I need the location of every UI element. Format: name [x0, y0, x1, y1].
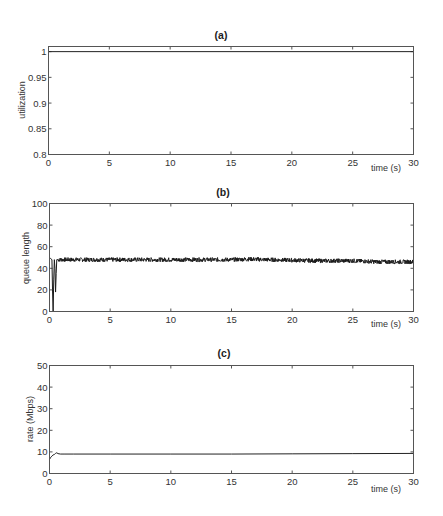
panel-a-frame [49, 47, 414, 155]
panel-c-frame [50, 366, 414, 474]
x-tick-label: 10 [166, 314, 177, 325]
panel-a-title: (a) [215, 29, 228, 41]
x-tick-label: 5 [108, 476, 113, 487]
x-tick-label: 0 [47, 476, 52, 487]
y-tick-label: 1 [41, 46, 46, 57]
panel-a-ticks: 0510152025300.80.850.90.951 [28, 46, 419, 167]
x-tick-label: 25 [348, 314, 359, 325]
y-tick-label: 0.95 [28, 72, 47, 83]
y-tick-label: 50 [37, 360, 48, 371]
x-tick-label: 30 [408, 157, 419, 168]
y-tick-label: 0 [42, 306, 47, 317]
x-tick-label: 20 [287, 314, 298, 325]
x-tick-label: 30 [408, 476, 419, 487]
panel-c: (c) rate (Mbps) time (s) 051015202530010… [25, 347, 419, 494]
y-tick-label: 20 [37, 425, 48, 436]
panel-b: (b) queue length time (s) 05101520253002… [21, 186, 419, 329]
y-tick-label: 30 [37, 403, 48, 414]
y-tick-label: 20 [37, 284, 48, 295]
x-tick-label: 25 [348, 476, 359, 487]
panel-c-series [50, 453, 414, 460]
x-tick-label: 15 [226, 157, 237, 168]
panel-c-xlabel: time (s) [371, 484, 401, 494]
x-tick-label: 0 [47, 314, 52, 325]
y-tick-label: 40 [37, 382, 48, 393]
x-tick-label: 20 [287, 157, 298, 168]
y-tick-label: 80 [37, 220, 48, 231]
y-tick-label: 10 [37, 446, 48, 457]
x-tick-label: 10 [165, 157, 176, 168]
x-tick-label: 0 [46, 157, 51, 168]
x-tick-label: 10 [166, 476, 177, 487]
x-tick-label: 20 [287, 476, 298, 487]
x-tick-label: 5 [108, 314, 113, 325]
x-tick-label: 30 [408, 314, 419, 325]
panel-c-ylabel: rate (Mbps) [25, 396, 35, 442]
x-tick-label: 5 [107, 157, 112, 168]
y-tick-label: 0.8 [33, 149, 46, 160]
y-tick-label: 0.85 [28, 123, 47, 134]
panel-c-ticks: 05101520253001020304050 [37, 360, 419, 487]
y-tick-label: 0 [42, 468, 47, 479]
panel-b-title: (b) [216, 186, 229, 198]
figure: (a) utilization time (s) 0510152025300.8… [0, 0, 443, 516]
y-tick-label: 60 [37, 241, 48, 252]
panel-b-series [50, 257, 414, 311]
panel-b-frame [50, 204, 414, 312]
y-tick-label: 100 [32, 198, 48, 209]
y-tick-label: 40 [37, 263, 48, 274]
panel-a-ylabel: utilization [17, 81, 27, 119]
x-tick-label: 25 [347, 157, 358, 168]
x-tick-label: 15 [226, 314, 237, 325]
panel-b-ylabel: queue length [21, 232, 31, 284]
panel-b-xlabel: time (s) [371, 319, 401, 329]
x-tick-label: 15 [226, 476, 237, 487]
panel-a-xlabel: time (s) [371, 163, 401, 173]
y-tick-label: 0.9 [33, 98, 46, 109]
series-line [50, 257, 414, 311]
series-line [50, 453, 414, 460]
panel-c-title: (c) [218, 347, 231, 359]
panel-a: (a) utilization time (s) 0510152025300.8… [17, 29, 419, 173]
